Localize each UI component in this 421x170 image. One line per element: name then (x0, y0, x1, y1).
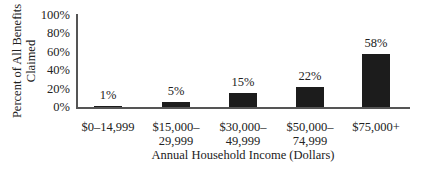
bar-value-label: 1% (78, 88, 138, 103)
bar-value-label: 58% (346, 36, 406, 51)
x-axis-line (76, 107, 410, 109)
y-tick-label: 40% (47, 64, 70, 76)
bar-value-label: 22% (280, 69, 340, 84)
y-tick-label: 0% (53, 101, 70, 113)
bar (362, 54, 390, 107)
x-category-label: $75,000+ (336, 120, 416, 134)
x-axis-title: Annual Household Income (Dollars) (76, 148, 410, 163)
bar-value-label: 15% (213, 75, 273, 90)
bar (94, 106, 122, 108)
bar (229, 93, 257, 107)
y-tick-label: 20% (47, 83, 70, 95)
y-axis-title-line-1: Percent of All Benefits (10, 4, 24, 118)
bar (162, 102, 190, 107)
y-axis-ticks: 0%20%40%60%80%100% (30, 0, 70, 120)
bar-value-label: 5% (146, 84, 206, 99)
y-tick-label: 60% (47, 46, 70, 58)
y-tick-label: 100% (41, 9, 70, 21)
y-tick-label: 80% (47, 27, 70, 39)
bar (296, 87, 324, 107)
